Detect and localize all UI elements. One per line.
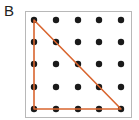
peg [96, 39, 102, 45]
peg [118, 61, 124, 67]
peg [75, 84, 81, 90]
peg [53, 61, 59, 67]
geoboard [0, 0, 139, 120]
peg [118, 39, 124, 45]
peg [118, 84, 124, 90]
peg [75, 17, 81, 23]
peg [118, 17, 124, 23]
peg [96, 61, 102, 67]
peg [53, 84, 59, 90]
peg [96, 17, 102, 23]
triangle-shape [34, 20, 121, 109]
peg [75, 39, 81, 45]
peg [53, 17, 59, 23]
